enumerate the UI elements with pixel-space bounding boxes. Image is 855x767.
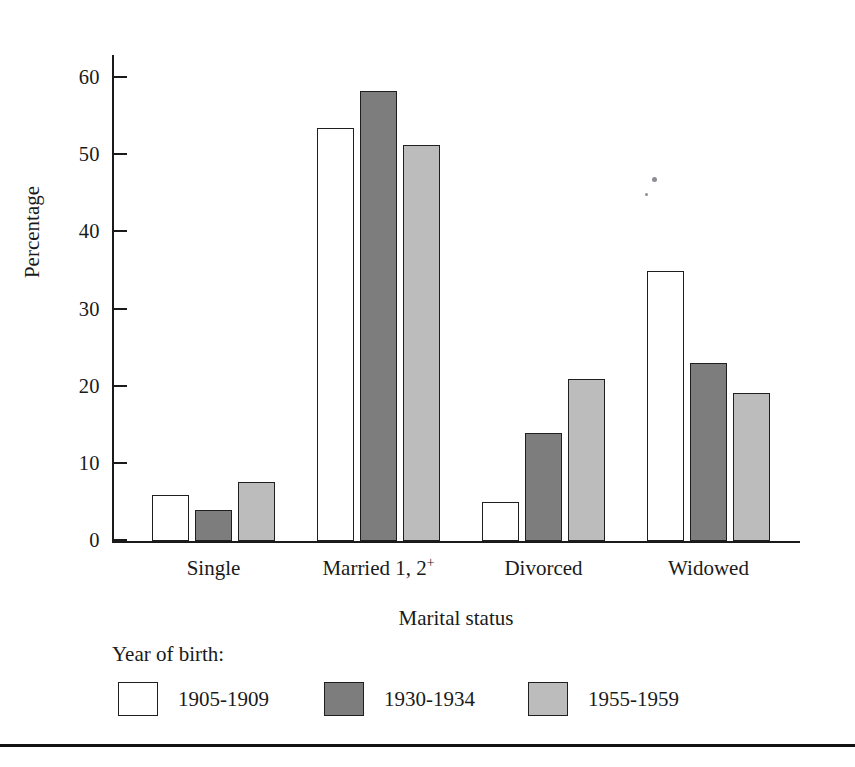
- bar: [482, 502, 519, 541]
- y-axis-title: Percentage: [20, 186, 45, 278]
- scan-speck: [652, 177, 657, 182]
- bars-layer: SingleMarried 1, 2+DivorcedWidowed: [114, 55, 800, 541]
- y-tick-label: 60: [79, 67, 100, 88]
- y-tick-label: 20: [79, 375, 100, 396]
- legend-label: 1905-1909: [178, 689, 269, 710]
- bar: [360, 91, 397, 541]
- plot-area: 0102030405060 SingleMarried 1, 2+Divorce…: [112, 55, 800, 543]
- legend-entry: 1930-1934: [324, 682, 475, 716]
- legend: Year of birth: 1905-19091930-19341955-19…: [112, 644, 812, 720]
- bar-group: Married 1, 2+: [317, 55, 467, 541]
- bar: [733, 393, 770, 541]
- legend-entry: 1955-1959: [528, 682, 679, 716]
- x-axis-line: [112, 541, 800, 543]
- y-tick-label: 10: [79, 453, 100, 474]
- dark-gray-swatch: [324, 682, 364, 716]
- white-swatch: [118, 682, 158, 716]
- light-gray-swatch: [528, 682, 568, 716]
- bar-chart-figure: Percentage 0102030405060 SingleMarried 1…: [0, 0, 855, 767]
- x-category-label: Widowed: [668, 558, 749, 579]
- x-category-label: Divorced: [504, 558, 582, 579]
- bar-group: Single: [152, 55, 302, 541]
- legend-label: 1930-1934: [384, 689, 475, 710]
- bar-group: Widowed: [647, 55, 797, 541]
- bar: [690, 363, 727, 541]
- legend-label: 1955-1959: [588, 689, 679, 710]
- bar: [195, 510, 232, 541]
- x-axis-title: Marital status: [112, 606, 800, 631]
- bar-group: Divorced: [482, 55, 632, 541]
- bar: [238, 482, 275, 541]
- x-category-label: Single: [187, 558, 241, 579]
- bar: [647, 271, 684, 541]
- bar: [525, 433, 562, 541]
- bar: [152, 495, 189, 541]
- y-tick-label: 50: [79, 144, 100, 165]
- legend-title: Year of birth:: [112, 644, 812, 665]
- legend-entries: 1905-19091930-19341955-1959: [112, 682, 812, 720]
- bar: [568, 379, 605, 541]
- y-tick-label: 30: [79, 298, 100, 319]
- bar: [403, 145, 440, 542]
- footer-rule: [0, 744, 855, 747]
- y-tick-label: 40: [79, 221, 100, 242]
- bar: [317, 128, 354, 541]
- y-tick-label: 0: [89, 530, 100, 551]
- legend-entry: 1905-1909: [118, 682, 269, 716]
- x-category-label: Married 1, 2+: [322, 558, 434, 579]
- scan-speck: [645, 193, 648, 196]
